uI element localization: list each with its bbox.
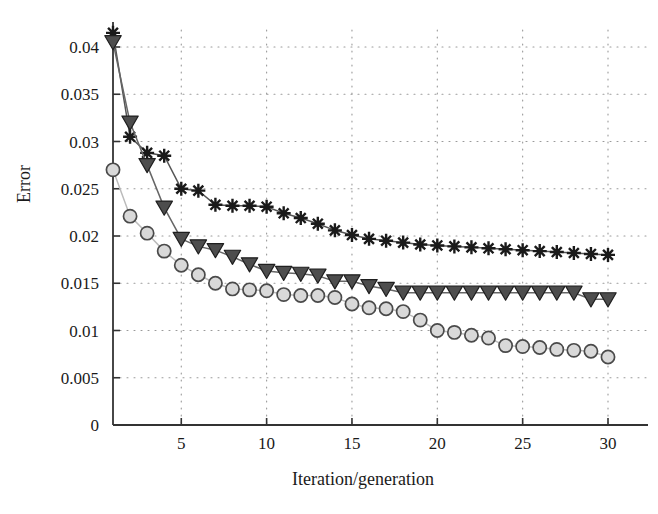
x-tick-label: 10 [258,435,275,452]
plot-canvas [0,0,658,514]
y-tick-label: 0.005 [0,369,99,386]
x-tick-label: 25 [514,435,531,452]
chart-figure: 00.0050.010.0150.020.0250.030.0350.04 51… [0,0,658,514]
x-tick-label: 30 [600,435,617,452]
gridlines [113,30,648,425]
data-series-layer [105,26,616,364]
series-asterisk [106,26,615,262]
x-tick-label: 20 [429,435,446,452]
y-tick-label: 0.015 [0,275,99,292]
y-tick-label: 0.01 [0,322,99,339]
x-axis-title: Iteration/generation [113,470,613,488]
x-tick-label: 5 [177,435,186,452]
x-tick-label: 15 [343,435,360,452]
y-axis-title: Error [15,124,33,244]
series-circle [106,163,614,363]
y-tick-label: 0.04 [0,39,99,56]
y-tick-label: 0 [0,417,99,434]
y-tick-label: 0.035 [0,86,99,103]
axis-lines [113,22,648,425]
